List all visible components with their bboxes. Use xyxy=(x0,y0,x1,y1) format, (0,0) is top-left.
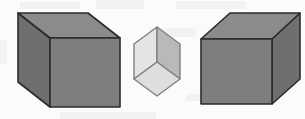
cubes-figure: Two large dark gray cubes shown in obliq… xyxy=(0,0,305,119)
left-large-cube xyxy=(18,13,120,107)
right-large-cube xyxy=(201,13,300,104)
scan-artifact xyxy=(60,112,156,119)
left-cube-front-face xyxy=(50,38,120,107)
scan-artifact xyxy=(176,1,246,9)
scan-artifact xyxy=(96,0,144,9)
scan-artifact xyxy=(20,2,80,9)
cubes-illustration xyxy=(0,0,305,119)
scan-artifact xyxy=(0,40,7,64)
right-cube-front-face xyxy=(201,39,272,104)
